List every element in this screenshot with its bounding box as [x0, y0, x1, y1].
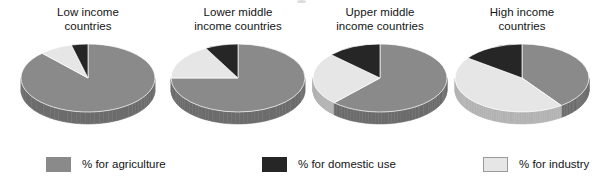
legend-label-industry: % for industry: [519, 158, 589, 170]
legend-swatch-domestic-use: [262, 157, 287, 172]
legend-swatch-agriculture: [46, 157, 71, 172]
pie-title-line1: Low income: [13, 5, 163, 19]
pie-svg-lower-middle-income: [163, 36, 313, 136]
pie-svg-low-income: [13, 36, 163, 136]
chart-legend: % for agriculture % for domestic use % f…: [0, 146, 605, 182]
pie-title-line2: income countries: [305, 19, 455, 33]
pie-chart-high-income: High income countries: [447, 0, 597, 140]
pie-chart-lower-middle-income: Lower middle income countries: [163, 0, 313, 140]
pie-title-upper-middle-income: Upper middle income countries: [305, 5, 455, 33]
pie-chart-upper-middle-income: Upper middle income countries: [305, 0, 455, 140]
pie-title-low-income: Low income countries: [13, 5, 163, 33]
pie-title-line2: countries: [13, 19, 163, 33]
pie-svg-upper-middle-income: [305, 36, 455, 136]
pie-title-lower-middle-income: Lower middle income countries: [163, 5, 313, 33]
pie-title-line1: High income: [447, 5, 597, 19]
pie-title-high-income: High income countries: [447, 5, 597, 33]
pie-svg-high-income: [447, 36, 597, 136]
legend-item-agriculture: % for agriculture: [46, 146, 166, 182]
legend-item-industry: % for industry: [483, 146, 589, 182]
pie-title-line2: countries: [447, 19, 597, 33]
pie-title-line2: income countries: [163, 19, 313, 33]
pie-chart-group: Low income countries Lower middle income…: [0, 0, 605, 140]
pie-chart-low-income: Low income countries: [13, 0, 163, 140]
legend-item-domestic-use: % for domestic use: [262, 146, 396, 182]
pie-title-line1: Upper middle: [305, 5, 455, 19]
pie-title-line1: Lower middle: [163, 5, 313, 19]
legend-swatch-industry: [483, 157, 508, 172]
legend-label-domestic-use: % for domestic use: [298, 158, 396, 170]
legend-label-agriculture: % for agriculture: [82, 158, 166, 170]
